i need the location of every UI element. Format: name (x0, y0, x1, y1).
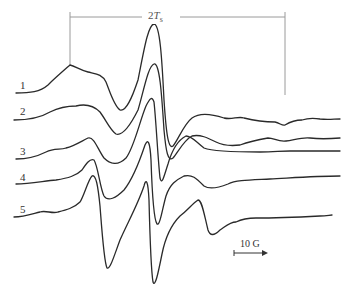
span-label: 2Ts (146, 9, 165, 24)
trace-label-3: 3 (20, 145, 26, 157)
span-marker (70, 12, 285, 95)
epr-spectra-figure: 2Ts 1 2 3 4 5 10 G (0, 0, 357, 304)
scale-bar (234, 250, 268, 256)
trace-label-1: 1 (20, 79, 26, 91)
spectra-plot (0, 0, 357, 304)
trace-label-4: 4 (20, 171, 26, 183)
trace-4 (16, 142, 340, 224)
trace-label-2: 2 (20, 105, 26, 117)
trace-5 (14, 176, 332, 284)
trace-label-5: 5 (20, 203, 26, 215)
scale-bar-label: 10 G (240, 238, 260, 249)
trace-1 (16, 24, 340, 147)
